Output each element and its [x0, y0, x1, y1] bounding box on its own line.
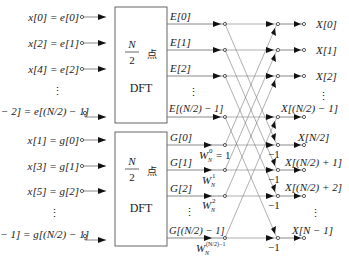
svg-text:−1: −1 [268, 173, 280, 185]
output-label-XN2: X[N/2] [297, 131, 329, 143]
even-inputs: x[0] = e[0] x[2] = e[1] x[4] = e[2] ⋮ x[… [0, 11, 89, 118]
svg-text:1: 1 [212, 172, 216, 180]
svg-text:2: 2 [212, 197, 216, 205]
input-node [80, 138, 83, 141]
twiddle-w2: W N 2 [202, 197, 216, 213]
svg-text:N: N [127, 155, 136, 167]
svg-text:E[2]: E[2] [169, 62, 191, 74]
input-label-x0: x[0] = e[0] [27, 11, 79, 23]
output-label-X0: X[0] [315, 18, 337, 30]
svg-text:N: N [204, 250, 210, 256]
svg-text:G[(N/2) − 1]: G[(N/2) − 1] [169, 225, 225, 237]
output-label-XN2-1: X[(N/2) − 1] [280, 102, 338, 115]
input-node [80, 67, 83, 70]
dft-label: DFT [130, 201, 153, 215]
input-label-x1: x[1] = g[0] [27, 134, 79, 146]
svg-text:G[0]: G[0] [170, 131, 192, 143]
input-label-xN-1: x[N − 1] = g[(N/2) − 1] [0, 228, 89, 241]
svg-text:E[(N/2) − 1]: E[(N/2) − 1] [168, 103, 223, 115]
svg-text:N: N [207, 157, 213, 163]
input-node [83, 234, 86, 237]
svg-text:E[0]: E[0] [169, 10, 191, 22]
output-label-XN-1: X[N − 1] [291, 224, 333, 236]
svg-text:N: N [210, 182, 216, 188]
fft-butterfly-diagram: x[0] = e[0] x[2] = e[1] x[4] = e[2] ⋮ x[… [0, 0, 349, 257]
svg-text:−1: −1 [268, 148, 280, 160]
dft-label: DFT [130, 81, 153, 95]
odd-dft-outputs: G[0] G[1] G[2] ⋮ G[(N/2) − 1] [169, 131, 225, 237]
input-label-x5: x[5] = g[2] [27, 185, 79, 197]
output-vdots-top: ⋮ [318, 90, 329, 102]
twiddle-wlast: W N (N/2)−1 [196, 241, 225, 256]
svg-text:G[1]: G[1] [170, 156, 192, 168]
input-node [80, 164, 83, 167]
output-label-X1: X[1] [315, 44, 337, 56]
input-node [80, 41, 83, 44]
input-vdots-even: ⋮ [52, 85, 63, 97]
input-wires [80, 14, 106, 243]
svg-text:N: N [127, 38, 136, 50]
dft-block-odd: N 2 点 DFT [115, 132, 167, 246]
input-vdots-odd: ⋮ [49, 207, 60, 219]
svg-text:2: 2 [129, 54, 135, 66]
twiddle-w1: W N 1 [202, 172, 216, 188]
svg-text:N: N [210, 207, 216, 213]
odd-inputs: x[1] = g[0] x[3] = g[1] x[5] = g[2] ⋮ x[… [0, 134, 89, 241]
svg-text:= 1: = 1 [216, 149, 230, 161]
output-label-XN2+1: X[(N/2) + 1] [284, 156, 342, 169]
input-label-x3: x[3] = g[1] [27, 160, 79, 172]
output-label-XN2+2: X[(N/2) + 2] [284, 181, 342, 194]
output-vdots-bottom: ⋮ [310, 207, 321, 219]
svg-text:点: 点 [147, 49, 157, 60]
svg-text:0: 0 [209, 147, 213, 155]
svg-text:−1: −1 [268, 241, 280, 253]
dft-block-even: N 2 点 DFT [115, 7, 167, 123]
input-node [80, 15, 83, 18]
twiddle-w0: W N 0 = 1 [199, 147, 230, 163]
svg-text:点: 点 [147, 166, 157, 177]
svg-text:(N/2)−1: (N/2)−1 [206, 241, 225, 248]
svg-text:⋮: ⋮ [184, 206, 195, 218]
input-label-xN-2: x[N − 2] = e[(N/2) − 1] [0, 105, 89, 118]
input-node [80, 189, 83, 192]
svg-text:E[1]: E[1] [169, 36, 191, 48]
input-node [83, 111, 86, 114]
output-label-X2: X[2] [315, 70, 337, 82]
svg-text:−1: −1 [268, 199, 280, 211]
arrow-icon [98, 14, 106, 243]
input-label-x4: x[4] = e[2] [27, 63, 79, 75]
input-label-x2: x[2] = e[1] [27, 37, 79, 49]
output-labels: X[0] X[1] X[2] ⋮ X[(N/2) − 1] X[N/2] X[(… [280, 18, 342, 236]
svg-text:2: 2 [129, 171, 135, 183]
svg-text:⋮: ⋮ [188, 86, 199, 98]
svg-text:G[2]: G[2] [170, 182, 192, 194]
